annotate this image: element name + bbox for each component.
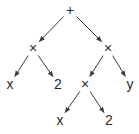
- edge-arrow-n5-n8: [90, 92, 104, 113]
- operator-node: +: [66, 2, 74, 18]
- operator-node: ×: [29, 40, 37, 56]
- edge-arrow-n0-n1: [39, 16, 63, 41]
- edge-arrow-n2-n6: [113, 56, 126, 77]
- expression-tree-diagram: +××x2×yx2: [0, 0, 139, 134]
- edge-arrow-n2-n5: [90, 56, 103, 77]
- operand-node: 2: [54, 76, 62, 92]
- operand-node: y: [127, 76, 134, 92]
- operator-node: ×: [104, 40, 112, 56]
- edge-arrow-n1-n3: [15, 56, 28, 77]
- operand-node: x: [57, 112, 64, 128]
- operand-node: x: [7, 76, 14, 92]
- operand-node: 2: [105, 112, 113, 128]
- edge-arrow-n5-n7: [65, 91, 80, 112]
- operator-node: ×: [81, 76, 89, 92]
- edge-arrow-n0-n2: [76, 16, 101, 41]
- edge-arrow-n1-n4: [38, 55, 53, 76]
